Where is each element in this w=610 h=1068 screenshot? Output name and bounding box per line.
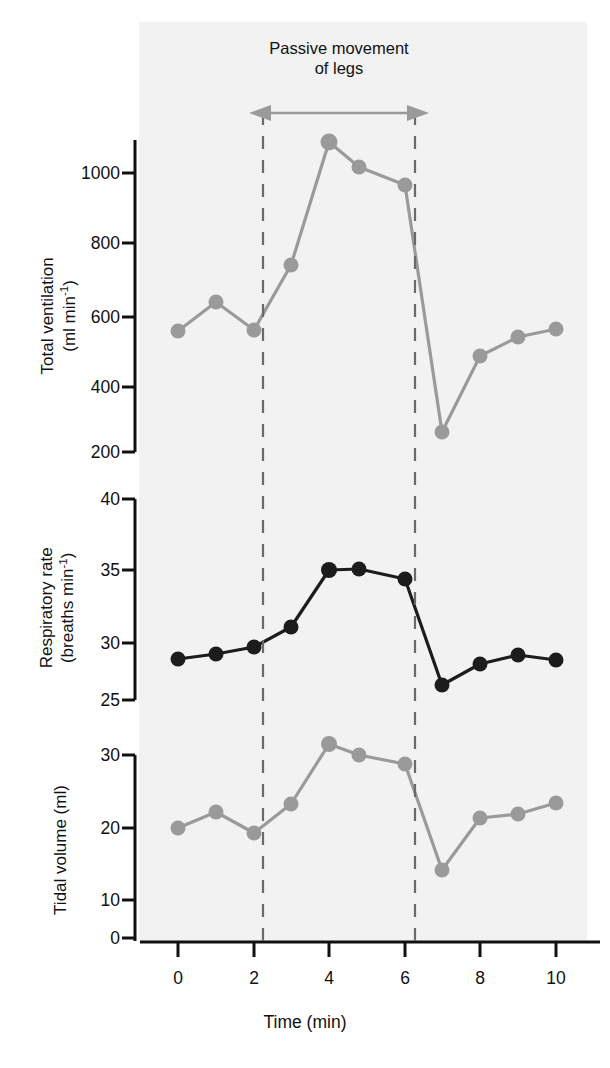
data-point [247, 323, 262, 338]
data-point [247, 640, 262, 655]
data-line-tidal-volume [178, 744, 556, 870]
data-point [209, 647, 224, 662]
data-point [473, 811, 488, 826]
data-point [352, 160, 367, 175]
intervention-arrow-head-left [249, 105, 271, 121]
data-points-total-ventilation [171, 134, 564, 440]
data-point [171, 324, 186, 339]
data-point [511, 330, 526, 345]
intervention-arrow-head-right [407, 105, 429, 121]
data-point [284, 797, 299, 812]
data-point [511, 807, 526, 822]
data-points-respiratory-rate [171, 562, 564, 693]
data-point [284, 620, 299, 635]
data-point [473, 657, 488, 672]
data-point [435, 425, 450, 440]
data-point [435, 863, 450, 878]
data-point [321, 562, 337, 578]
data-point [549, 653, 564, 668]
data-line-respiratory-rate [178, 569, 556, 685]
data-point [171, 652, 186, 667]
data-point [398, 572, 413, 587]
data-point [321, 736, 337, 752]
data-point [209, 295, 224, 310]
panel-tidal-volume [122, 736, 564, 941]
data-point [435, 678, 450, 693]
data-line-total-ventilation [178, 142, 556, 432]
data-point [321, 134, 338, 151]
data-point [398, 178, 413, 193]
data-point [171, 821, 186, 836]
data-point [549, 322, 564, 337]
data-point [284, 258, 299, 273]
data-point [473, 349, 488, 364]
data-point [352, 562, 367, 577]
data-point [247, 826, 262, 841]
panel-respiratory-rate [122, 499, 564, 700]
panel-total-ventilation [122, 134, 564, 453]
data-point [511, 648, 526, 663]
data-point [549, 796, 564, 811]
xaxis [140, 942, 600, 957]
data-point [352, 748, 367, 763]
chart-svg [0, 0, 610, 1068]
physiology-figure: Total ventilation (ml min-1) Respiratory… [0, 0, 610, 1068]
data-point [209, 805, 224, 820]
data-point [398, 757, 413, 772]
